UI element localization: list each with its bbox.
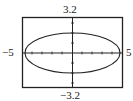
y-min-label: −3.2 [60, 90, 80, 101]
chart-plot [0, 0, 133, 101]
x-max-label: 5 [126, 47, 132, 58]
y-max-label: 3.2 [63, 4, 77, 15]
x-min-label: −5 [2, 47, 14, 58]
